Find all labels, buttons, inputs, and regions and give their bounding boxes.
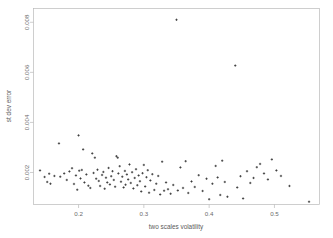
data-point [91,152,93,154]
data-point [165,181,167,183]
data-point [155,183,157,185]
data-point [96,169,98,171]
data-point [63,172,65,174]
data-point [76,189,78,191]
data-point [169,193,171,195]
data-point [224,181,226,183]
data-point [109,183,111,185]
data-point [184,160,186,162]
data-point [137,174,139,176]
data-point [280,175,282,177]
data-point [145,176,147,178]
data-point [179,166,181,168]
data-point [252,177,254,179]
data-point [187,192,189,194]
data-point [104,188,106,190]
data-point [308,201,310,203]
data-point [246,170,248,172]
data-point [242,197,244,199]
data-point [136,184,138,186]
data-point [113,179,115,181]
y-axis-ticks [30,22,34,172]
data-point [215,165,217,167]
data-point [205,178,207,180]
data-point [140,190,142,192]
data-point [82,148,84,150]
data-point [148,192,150,194]
data-point-series [39,19,310,203]
data-point [151,173,153,175]
data-point [208,198,210,200]
data-point [256,166,258,168]
data-point [126,173,128,175]
data-point [226,196,228,198]
data-point [101,174,103,176]
data-point [167,188,169,190]
data-point [119,165,121,167]
data-point [117,172,119,174]
y-tick-label: 0.008 [23,14,30,30]
data-point [135,168,137,170]
data-point [172,184,174,186]
data-point [149,179,151,181]
data-point [211,183,213,185]
data-point [236,186,238,188]
data-point [239,175,241,177]
data-point [194,186,196,188]
x-tick-label: 0.5 [270,210,279,217]
data-point [134,177,136,179]
data-point [147,169,149,171]
data-point [107,167,109,169]
x-tick-label: 0.4 [205,210,214,217]
data-point [58,142,60,144]
data-point [48,173,50,175]
data-point [201,190,203,192]
x-tick-label: 0.3 [140,210,149,217]
data-point [190,180,192,182]
data-point [85,173,87,175]
data-point [73,183,75,185]
data-point [216,176,218,178]
data-point [124,184,126,186]
data-point [87,185,89,187]
y-tick-label: 0.002 [23,164,30,180]
plot-canvas: 0.20.30.40.5 0.0020.0040.0060.008 two sc… [0,0,333,238]
data-point [89,187,91,189]
data-point [139,180,141,182]
data-point [49,183,51,185]
data-point [198,174,200,176]
data-point [259,163,261,165]
data-point [157,175,159,177]
data-point [127,178,129,180]
data-point [131,171,133,173]
data-point [46,181,48,183]
data-point [120,181,122,183]
data-point [81,169,83,171]
data-point [153,189,155,191]
data-point [92,172,94,174]
data-point [182,187,184,189]
data-point [39,169,41,171]
data-point [122,186,124,188]
data-point [111,170,113,172]
data-point [175,19,177,21]
x-axis-tick-labels: 0.20.30.40.5 [74,210,279,217]
data-point [71,167,73,169]
data-point [105,177,107,179]
y-axis-tick-labels: 0.0020.0040.0060.008 [23,14,30,180]
data-point [130,182,132,184]
data-point [117,157,119,159]
data-point [275,169,277,171]
x-tick-label: 0.2 [74,210,83,217]
data-point [219,194,221,196]
data-point [163,190,165,192]
data-point [110,175,112,177]
y-axis-title: st dev error [5,89,12,122]
data-point [234,64,236,66]
data-point [144,185,146,187]
data-point [106,181,108,183]
data-point [115,155,117,157]
data-point [94,157,96,159]
x-axis-title: two scales volatility [149,223,204,231]
data-point [114,186,116,188]
